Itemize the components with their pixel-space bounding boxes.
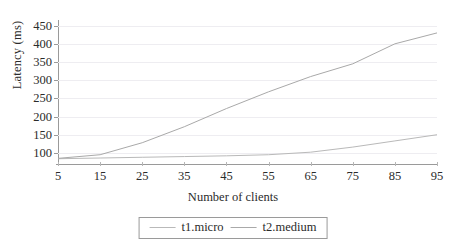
x-tick-label: 25 <box>136 170 149 183</box>
y-tick-label: 350 <box>33 56 52 69</box>
series-lines <box>58 22 437 162</box>
x-tick-label: 45 <box>220 170 233 183</box>
x-tick <box>269 162 270 166</box>
x-tick-label: 55 <box>262 170 275 183</box>
x-axis-title: Number of clients <box>0 190 466 205</box>
x-tick <box>184 162 185 166</box>
x-tick <box>142 162 143 166</box>
latency-line-chart: Latency (ms) 100150200250300350400450 51… <box>0 0 466 252</box>
y-tick-label: 300 <box>33 74 52 87</box>
x-tick <box>353 162 354 166</box>
y-tick-label: 250 <box>33 92 52 105</box>
legend-line-icon <box>231 227 257 228</box>
x-tick-label: 5 <box>55 170 61 183</box>
x-tick-label: 95 <box>431 170 444 183</box>
x-tick <box>100 162 101 166</box>
y-tick-label: 100 <box>33 147 52 160</box>
x-tick <box>311 162 312 166</box>
x-tick <box>58 162 59 166</box>
y-tick-label: 450 <box>33 19 52 32</box>
legend-label: t2.medium <box>263 221 317 234</box>
x-tick-label: 35 <box>178 170 191 183</box>
y-tick-label: 400 <box>33 38 52 51</box>
legend-label: t1.micro <box>182 221 224 234</box>
chart-legend: t1.micro t2.medium <box>139 217 328 239</box>
legend-line-icon <box>150 227 176 228</box>
x-tick-label: 65 <box>304 170 317 183</box>
x-tick <box>437 162 438 166</box>
y-tick-label: 200 <box>33 110 52 123</box>
x-tick <box>226 162 227 166</box>
series-line-t1-micro <box>58 135 437 159</box>
legend-item-t2-medium[interactable]: t2.medium <box>231 221 317 234</box>
x-tick <box>395 162 396 166</box>
x-tick-label: 85 <box>389 170 402 183</box>
y-tick-label: 150 <box>33 128 52 141</box>
y-axis-title: Latency (ms) <box>10 0 32 120</box>
x-tick-label: 15 <box>94 170 107 183</box>
x-tick-label: 75 <box>347 170 360 183</box>
legend-item-t1-micro[interactable]: t1.micro <box>150 221 224 234</box>
plot-area: 100150200250300350400450 515253545556575… <box>58 22 437 162</box>
series-line-t2-medium <box>58 33 437 158</box>
x-axis-line <box>56 164 438 165</box>
